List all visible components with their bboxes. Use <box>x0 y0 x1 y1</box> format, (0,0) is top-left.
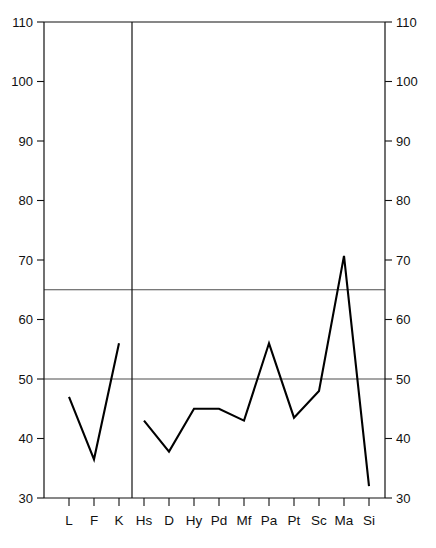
right-axis-tick-label: 80 <box>396 193 410 208</box>
left-axis-tick-label: 70 <box>19 253 33 268</box>
right-axis-tick-label: 30 <box>396 491 410 506</box>
right-axis-tick-label: 100 <box>396 74 418 89</box>
x-axis-label-D: D <box>164 513 174 528</box>
left-axis-tick-label: 110 <box>12 15 33 30</box>
mmpi-profile-chart: 30405060708090100110 3040506070809010011… <box>0 0 436 548</box>
left-axis-tick-label: 80 <box>19 193 33 208</box>
x-axis: LFKHsDHyPdMfPaPtScMaSi <box>65 498 375 528</box>
x-axis-label-L: L <box>65 513 73 528</box>
x-axis-label-Ma: Ma <box>335 513 354 528</box>
left-axis-tick-label: 90 <box>19 134 33 149</box>
right-axis-tick-label: 60 <box>396 312 410 327</box>
left-axis-tick-label: 60 <box>19 312 33 327</box>
chart-canvas: 30405060708090100110 3040506070809010011… <box>0 0 436 548</box>
left-axis-tick-label: 50 <box>19 372 33 387</box>
x-axis-label-Hs: Hs <box>136 513 153 528</box>
right-axis-tick-label: 70 <box>396 253 410 268</box>
x-axis-label-K: K <box>114 513 123 528</box>
left-axis-tick-label: 30 <box>19 491 33 506</box>
right-axis-tick-label: 110 <box>396 15 417 30</box>
x-axis-label-Mf: Mf <box>237 513 252 528</box>
x-axis-label-Pd: Pd <box>211 513 228 528</box>
x-axis-label-Hy: Hy <box>186 513 203 528</box>
right-axis-tick-label: 90 <box>396 134 410 149</box>
right-axis-tick-label: 50 <box>396 372 410 387</box>
right-y-axis: 30405060708090100110 <box>385 15 418 506</box>
x-axis-label-F: F <box>90 513 98 528</box>
x-axis-label-Si: Si <box>363 513 375 528</box>
left-axis-tick-label: 100 <box>11 74 33 89</box>
plot-area-background <box>44 22 385 498</box>
x-axis-label-Pt: Pt <box>288 513 301 528</box>
left-y-axis: 30405060708090100110 <box>11 15 44 506</box>
x-axis-label-Sc: Sc <box>311 513 327 528</box>
left-axis-tick-label: 40 <box>19 431 33 446</box>
x-axis-label-Pa: Pa <box>261 513 278 528</box>
right-axis-tick-label: 40 <box>396 431 410 446</box>
